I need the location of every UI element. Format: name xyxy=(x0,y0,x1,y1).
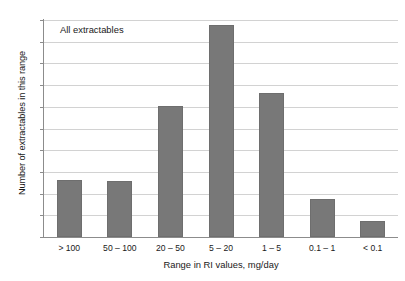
gridline xyxy=(44,20,398,21)
y-tick-mark xyxy=(40,129,44,130)
y-tick-mark xyxy=(40,42,44,43)
y-tick-mark xyxy=(40,194,44,195)
y-tick-mark xyxy=(40,85,44,86)
y-tick-mark xyxy=(40,215,44,216)
bar[interactable] xyxy=(158,106,183,237)
y-tick-mark xyxy=(40,150,44,151)
y-axis-title: Number of extractables in this range xyxy=(17,18,27,228)
y-tick-mark xyxy=(40,172,44,173)
bar[interactable] xyxy=(107,181,132,237)
plot-area: 200180160140120100806040200 xyxy=(44,20,398,237)
x-axis-title: Range in RI values, mg/day xyxy=(44,259,398,270)
y-tick-mark xyxy=(40,63,44,64)
x-tick-label: < 0.1 xyxy=(333,243,405,253)
bar[interactable] xyxy=(209,25,234,237)
y-tick-mark xyxy=(40,107,44,108)
bar[interactable] xyxy=(360,221,385,237)
y-tick-mark xyxy=(40,20,44,21)
bar-chart-figure: Number of extractables in this range 200… xyxy=(0,0,405,281)
bar[interactable] xyxy=(310,199,335,237)
bar[interactable] xyxy=(259,93,284,237)
plot-annotation: All extractables xyxy=(60,24,124,35)
y-tick-mark xyxy=(40,237,44,238)
bar[interactable] xyxy=(57,180,82,238)
x-axis-line xyxy=(44,237,398,238)
